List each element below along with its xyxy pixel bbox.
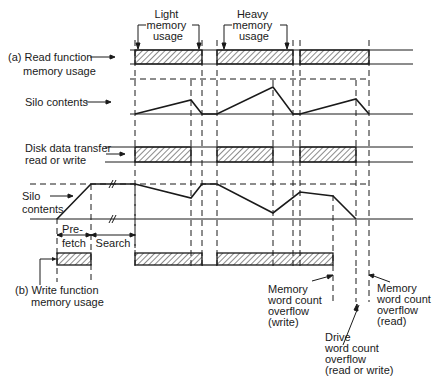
light-memory-label: Light memory usage bbox=[147, 8, 190, 42]
drive-overflow-label: Drive word count overflow (read or write… bbox=[324, 331, 393, 376]
write-function-row bbox=[40, 253, 333, 285]
disk-transfer-label: Disk data transfer read or write bbox=[25, 142, 114, 166]
heavy-memory-label: Heavy memory usage bbox=[233, 8, 276, 42]
silo-contents-a-label: Silo contents bbox=[25, 96, 88, 108]
prefetch-label: Pre- fetch bbox=[62, 223, 86, 249]
write-function-label: (b) Write function memory usage bbox=[15, 284, 104, 308]
timing-diagram: Light memory usage Heavy memory usage (a… bbox=[0, 0, 434, 382]
read-function-label: (a) Read function memory usage bbox=[8, 51, 96, 77]
silo-contents-b-label: Silo contents bbox=[22, 190, 64, 215]
read-function-row bbox=[130, 50, 413, 64]
silo-contents-a-trace bbox=[130, 87, 413, 114]
mem-overflow-read-label: Memory word count overflow (read) bbox=[376, 282, 434, 327]
disk-transfer-row bbox=[105, 147, 413, 162]
search-label: Search bbox=[96, 237, 131, 249]
mem-overflow-write-label: Memory word count overflow (write) bbox=[267, 283, 325, 328]
